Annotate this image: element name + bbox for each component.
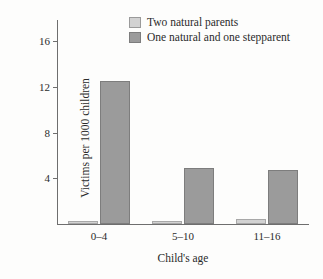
y-tick-mark [53, 41, 58, 42]
y-axis-line [57, 20, 58, 225]
x-group-label-5-10: 5–10 [172, 230, 194, 242]
y-tick-label: 8 [45, 127, 51, 138]
x-group-label-11-16: 11–16 [253, 230, 280, 242]
legend-item-one-natural-and-one-stepparent: One natural and one stepparent [129, 31, 290, 43]
legend-swatch-icon [129, 32, 141, 43]
bar-one-natural-stepparent-11-16 [268, 170, 298, 224]
bar-two-natural-parents-11-16 [236, 219, 266, 224]
x-group-label-0-4: 0–4 [91, 230, 108, 242]
y-tick-mark [53, 178, 58, 179]
x-axis-title: Child's age [57, 252, 309, 264]
y-tick-label: 4 [45, 173, 51, 184]
y-tick-mark [53, 87, 58, 88]
y-axis-title: Victims per 1000 children [79, 48, 91, 228]
bar-two-natural-parents-5-10 [152, 221, 182, 224]
legend-label: Two natural parents [147, 16, 238, 28]
x-axis-line [57, 224, 309, 225]
y-tick-label: 16 [39, 36, 50, 47]
legend-label: One natural and one stepparent [147, 31, 290, 43]
legend-item-two-natural-parents: Two natural parents [129, 16, 290, 28]
bar-chart-figure: 16 12 8 4 0–4 5–10 11–16 Victims per 100… [0, 0, 323, 279]
legend: Two natural parents One natural and one … [129, 16, 290, 43]
legend-swatch-icon [129, 17, 141, 28]
plot-area: 16 12 8 4 0–4 5–10 11–16 Victims per 100… [57, 20, 309, 225]
bar-one-natural-stepparent-0-4 [100, 81, 130, 224]
y-tick-label: 12 [39, 82, 50, 93]
y-tick-mark [53, 133, 58, 134]
bar-one-natural-stepparent-5-10 [184, 168, 214, 224]
